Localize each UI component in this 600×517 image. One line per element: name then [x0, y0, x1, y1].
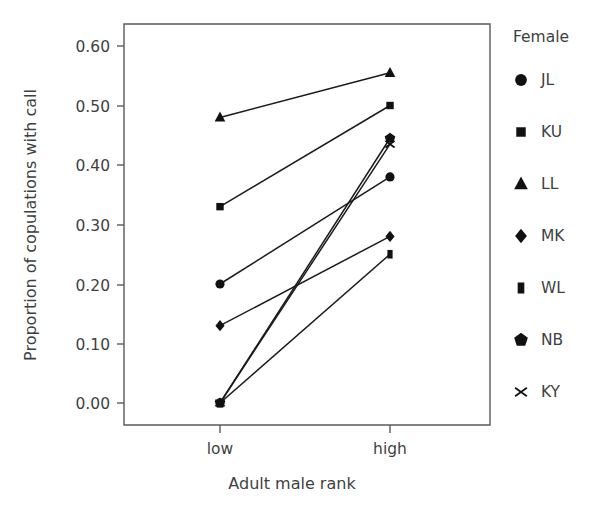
series-line — [220, 144, 390, 403]
cropped-caption-artifact — [120, 497, 520, 511]
line-chart: 0.60 0.50 0.40 0.30 0.20 0.10 0.00 Propo… — [0, 0, 600, 517]
legend-item-label: MK — [541, 227, 565, 245]
legend-item-mk[interactable]: MK — [515, 227, 565, 245]
data-point-diamond-icon — [385, 231, 394, 242]
y-axis-tick-labels: 0.60 0.50 0.40 0.30 0.20 0.10 0.00 — [75, 38, 110, 413]
y-axis-title: Proportion of copulations with call — [21, 89, 40, 361]
y-tick-label: 0.60 — [75, 38, 110, 56]
data-point-square-icon — [216, 203, 223, 210]
y-tick-label: 0.10 — [75, 336, 110, 354]
legend-item-label: LL — [541, 175, 559, 193]
legend-item-jl[interactable]: JL — [515, 71, 554, 89]
y-tick-label: 0.20 — [75, 277, 110, 295]
series-line — [220, 73, 390, 118]
data-point-circle-icon — [215, 279, 224, 288]
legend-rectangle-icon — [518, 282, 525, 293]
series-ll — [215, 67, 396, 122]
y-tick-label: 0.40 — [75, 157, 110, 175]
legend-item-wl[interactable]: WL — [518, 279, 566, 297]
series-mk — [215, 231, 394, 331]
legend-pentagon-icon — [514, 333, 528, 346]
legend-item-ll[interactable]: LL — [514, 175, 558, 193]
x-axis-title: Adult male rank — [228, 474, 356, 493]
y-axis-ticks — [117, 46, 124, 403]
data-series-layer — [215, 67, 396, 408]
legend-diamond-icon — [515, 229, 527, 243]
series-line — [220, 254, 390, 403]
data-point-circle-icon — [385, 172, 394, 181]
x-tick-label-high: high — [373, 440, 407, 458]
legend-square-icon — [516, 127, 525, 136]
series-line — [220, 106, 390, 207]
legend-item-ky[interactable]: KY — [515, 383, 560, 401]
y-tick-label: 0.30 — [75, 217, 110, 235]
data-point-rectangle-icon — [387, 250, 392, 259]
legend-item-ku[interactable]: KU — [516, 123, 562, 141]
data-point-diamond-icon — [215, 320, 224, 331]
legend-cross-icon — [515, 388, 527, 396]
series-line — [220, 177, 390, 284]
data-point-triangle-icon — [385, 67, 396, 77]
plot-frame — [124, 24, 490, 425]
legend-item-label: NB — [541, 331, 563, 349]
x-tick-label-low: low — [207, 440, 234, 458]
legend-item-nb[interactable]: NB — [514, 331, 563, 349]
series-ku — [216, 102, 393, 211]
legend-circle-icon — [515, 74, 527, 86]
legend-item-label: KY — [541, 383, 561, 401]
data-point-square-icon — [386, 102, 393, 109]
legend-item-label: WL — [541, 279, 565, 297]
legend-title: Female — [513, 28, 569, 46]
series-line — [220, 236, 390, 325]
figure-container: 0.60 0.50 0.40 0.30 0.20 0.10 0.00 Propo… — [0, 0, 600, 517]
legend-triangle-icon — [514, 177, 528, 190]
y-tick-label: 0.50 — [75, 98, 110, 116]
legend-item-label: KU — [541, 123, 562, 141]
y-tick-label: 0.00 — [75, 395, 110, 413]
x-axis-ticks — [220, 425, 390, 433]
legend: JLKULLMKWLNBKY — [514, 71, 565, 401]
legend-item-label: JL — [540, 71, 555, 89]
